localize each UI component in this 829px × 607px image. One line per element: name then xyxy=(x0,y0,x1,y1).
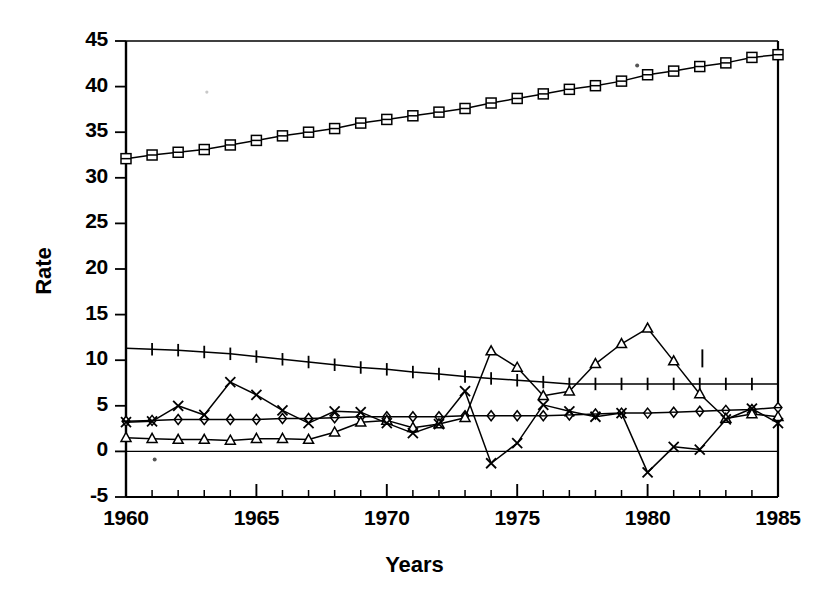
diamond-marker xyxy=(644,408,652,418)
x-series xyxy=(121,377,783,477)
y-tick-label: 40 xyxy=(44,73,108,97)
diamond-marker xyxy=(226,414,234,424)
square-marker xyxy=(173,147,183,157)
diamond-marker xyxy=(409,412,417,422)
x-axis-title: Years xyxy=(0,552,829,578)
triangle-marker xyxy=(512,362,522,371)
square-marker xyxy=(434,107,444,117)
square-marker xyxy=(617,76,627,86)
square-marker xyxy=(121,154,131,164)
y-tick-label: 35 xyxy=(44,118,108,142)
square-marker xyxy=(408,111,418,121)
square-marker xyxy=(251,135,261,145)
stray-dot-upper xyxy=(635,64,639,68)
square-marker xyxy=(564,84,574,94)
x-tick-label: 1970 xyxy=(342,506,432,530)
x-marker xyxy=(643,467,653,477)
triangle-marker xyxy=(643,323,653,332)
stray-dot-faint-left xyxy=(205,90,208,93)
y-tick-label: 5 xyxy=(44,392,108,416)
square-marker xyxy=(225,140,235,150)
y-tick-label: 30 xyxy=(44,164,108,188)
y-tick-label: 10 xyxy=(44,346,108,370)
plus-series xyxy=(126,342,778,390)
axes xyxy=(115,41,778,497)
square-marker xyxy=(304,127,314,137)
square-marker xyxy=(721,58,731,68)
square-marker xyxy=(356,118,366,128)
x-tick-label: 1985 xyxy=(733,506,823,530)
diamond-marker xyxy=(539,411,547,421)
diamond-marker xyxy=(487,411,495,421)
x-tick-label: 1960 xyxy=(81,506,171,530)
x-tick-label: 1965 xyxy=(211,506,301,530)
square-marker xyxy=(695,62,705,72)
diamond-marker xyxy=(513,411,521,421)
annotations-group xyxy=(153,64,703,462)
x-marker xyxy=(512,438,522,448)
triangle-marker xyxy=(486,346,496,355)
square-marker xyxy=(538,89,548,99)
stray-dot-lower xyxy=(153,458,157,462)
x-tick-label: 1980 xyxy=(603,506,693,530)
x-marker xyxy=(225,377,235,387)
square-marker xyxy=(512,93,522,103)
x-marker xyxy=(538,400,548,410)
diamond-marker xyxy=(253,414,261,424)
triangle-marker xyxy=(590,359,600,368)
square-marker xyxy=(199,145,209,155)
diamond-marker xyxy=(279,414,287,424)
square-marker xyxy=(382,114,392,124)
y-axis-title: Rate xyxy=(31,221,57,321)
x-marker xyxy=(251,390,261,400)
square-marker xyxy=(747,52,757,62)
square-marker xyxy=(643,70,653,80)
square-marker xyxy=(330,124,340,134)
x-marker xyxy=(173,401,183,411)
x-tick-label: 1975 xyxy=(472,506,562,530)
y-tick-label: -5 xyxy=(44,483,108,507)
x-marker xyxy=(460,386,470,396)
diamond-series xyxy=(122,403,782,427)
square-marker xyxy=(277,131,287,141)
data-series-group xyxy=(121,50,783,478)
square-series xyxy=(121,50,783,164)
square-marker xyxy=(590,81,600,91)
triangle-marker xyxy=(121,432,131,441)
square-marker xyxy=(147,150,157,160)
square-marker xyxy=(773,50,783,60)
diamond-marker xyxy=(696,406,704,416)
chart-container: 454035302520151050-5 1960196519701975198… xyxy=(0,0,829,607)
x-marker xyxy=(486,458,496,468)
diamond-marker xyxy=(670,407,678,417)
y-tick-label: 45 xyxy=(44,27,108,51)
square-marker xyxy=(669,66,679,76)
diamond-marker xyxy=(174,414,182,424)
square-marker xyxy=(486,98,496,108)
y-tick-label: 0 xyxy=(44,437,108,461)
triangle-marker xyxy=(617,339,627,348)
square-marker xyxy=(460,103,470,113)
